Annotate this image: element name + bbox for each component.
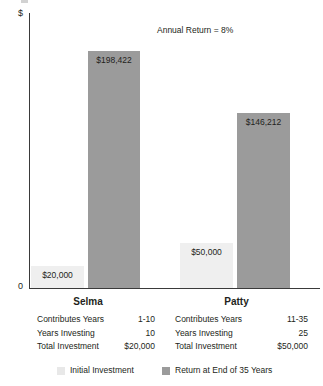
row-label: Total Investment	[37, 340, 99, 354]
annual-return-annotation: Annual Return = 8%	[157, 25, 233, 36]
legend-swatch-icon	[57, 367, 65, 375]
bar-patty-return[interactable]: $146,212	[237, 113, 290, 288]
row-value: 11-35	[287, 313, 308, 327]
bar-value-label: $198,422	[88, 55, 140, 66]
table-row: Total Investment $20,000	[37, 340, 155, 354]
chart-plot-area: $ 0 Annual Return = 8% $20,000 $198,422 …	[0, 0, 323, 292]
detail-table-selma: Contributes Years 1-10 Years Investing 1…	[37, 313, 155, 354]
bar-value-label: $50,000	[180, 247, 233, 258]
y-axis-line	[29, 13, 30, 288]
row-value: 10	[146, 327, 155, 341]
bar-selma-return[interactable]: $198,422	[88, 51, 140, 288]
row-value: 25	[299, 327, 308, 341]
legend-item-return[interactable]: Return at End of 35 Years	[162, 365, 272, 376]
clipped-artifact	[21, 0, 28, 3]
row-value: $50,000	[277, 340, 308, 354]
row-value: $20,000	[124, 340, 155, 354]
legend-label: Return at End of 35 Years	[175, 365, 272, 376]
bar-value-label: $20,000	[31, 270, 84, 281]
table-row: Years Investing 10	[37, 327, 155, 341]
chart-legend: Initial Investment Return at End of 35 Y…	[0, 365, 323, 379]
table-row: Total Investment $50,000	[175, 340, 308, 354]
row-value: 1-10	[138, 313, 155, 327]
bar-selma-initial-investment[interactable]: $20,000	[31, 266, 84, 288]
row-label: Years Investing	[175, 327, 233, 341]
legend-label: Initial Investment	[70, 365, 134, 376]
y-axis-unit-label: $	[18, 8, 23, 18]
group-label-patty: Patty	[180, 295, 293, 308]
row-label: Years Investing	[37, 327, 95, 341]
detail-table-patty: Contributes Years 11-35 Years Investing …	[175, 313, 308, 354]
y-axis-zero-label: 0	[18, 281, 23, 291]
bar-patty-initial-investment[interactable]: $50,000	[180, 243, 233, 288]
legend-item-initial-investment[interactable]: Initial Investment	[57, 365, 134, 376]
bar-value-label: $146,212	[237, 117, 290, 128]
table-row: Contributes Years 1-10	[37, 313, 155, 327]
row-label: Contributes Years	[37, 313, 104, 327]
legend-swatch-icon	[162, 367, 170, 375]
table-row: Years Investing 25	[175, 327, 308, 341]
row-label: Contributes Years	[175, 313, 242, 327]
group-label-selma: Selma	[31, 295, 145, 308]
row-label: Total Investment	[175, 340, 237, 354]
table-row: Contributes Years 11-35	[175, 313, 308, 327]
x-axis-line	[29, 288, 320, 289]
